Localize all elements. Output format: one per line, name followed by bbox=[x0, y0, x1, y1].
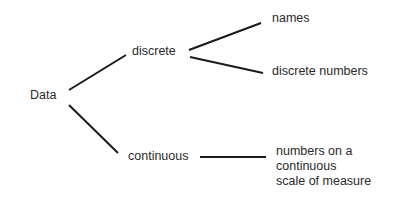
continuous-description-line-1: numbers on a bbox=[276, 144, 406, 159]
node-names: names bbox=[272, 11, 310, 26]
edge-discrete-to-names bbox=[189, 23, 261, 50]
node-discrete-numbers: discrete numbers bbox=[272, 64, 368, 79]
node-data: Data bbox=[30, 88, 56, 103]
node-discrete: discrete bbox=[132, 44, 176, 59]
edge-data-to-continuous bbox=[69, 105, 118, 153]
continuous-description-line-3: scale of measure bbox=[276, 174, 406, 189]
edge-discrete-to-discrete-numbers bbox=[190, 57, 263, 73]
edge-data-to-discrete bbox=[69, 55, 126, 90]
node-continuous-description: numbers on a continuous scale of measure bbox=[276, 144, 406, 189]
continuous-description-line-2: continuous bbox=[276, 159, 406, 174]
node-continuous: continuous bbox=[128, 149, 188, 164]
data-types-diagram: Data discrete continuous names discrete … bbox=[0, 0, 408, 214]
